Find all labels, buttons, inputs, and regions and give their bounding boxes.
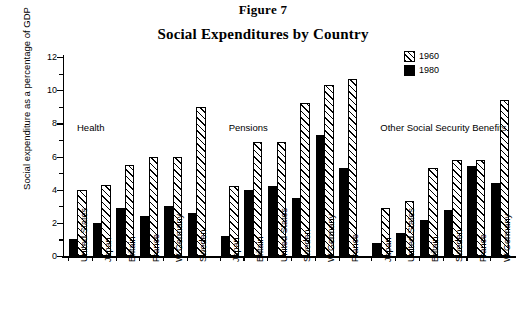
figure-container: Figure 7 Social Expenditures by Country … (0, 0, 526, 322)
bar-pair (370, 57, 394, 256)
x-tick (371, 257, 372, 261)
x-axis-label: Britain (255, 236, 265, 262)
y-tick-label-8: 8 (39, 119, 57, 128)
x-axis-label: Britain (127, 236, 137, 262)
x-axis-label: Japan (383, 237, 393, 262)
x-axis-label: Japan (231, 237, 241, 262)
x-axis-label: Japan (103, 237, 113, 262)
x-tick (339, 257, 340, 261)
x-axis-label: W Germany (174, 214, 184, 262)
y-tick-0 (57, 256, 63, 257)
x-tick (243, 257, 244, 261)
bar-pair (138, 57, 162, 256)
y-tick-label-10: 10 (39, 86, 57, 95)
x-axis-label: France (151, 234, 161, 262)
bar-pair (442, 57, 466, 256)
x-tick (68, 257, 69, 261)
x-tick (419, 257, 420, 261)
plot-area: Social expenditure as a percentage of GD… (63, 57, 515, 256)
group-label-pensions: Pensions (229, 122, 268, 133)
bar-pair (186, 57, 210, 256)
x-tick (163, 257, 164, 261)
y-tick-label-6: 6 (39, 153, 57, 162)
x-axis-label: Sweden (198, 229, 208, 262)
x-tick (490, 257, 491, 261)
x-tick (139, 257, 140, 261)
x-axis-label: United States (279, 208, 289, 262)
bar-pair (219, 57, 243, 256)
y-tick-label-2: 2 (39, 219, 57, 228)
x-axis-label: Britain (430, 236, 440, 262)
x-axis-label: W Germany (326, 214, 336, 262)
figure-number: Figure 7 (0, 2, 526, 18)
bar-pair (115, 57, 139, 256)
x-axis-label: France (478, 234, 488, 262)
x-tick (315, 257, 316, 261)
bar-pair (290, 57, 314, 256)
x-tick (220, 257, 221, 261)
x-tick (267, 257, 268, 261)
x-axis-label: France (350, 234, 360, 262)
group-label-health: Health (77, 122, 104, 133)
bar-pair (242, 57, 266, 256)
x-axis-label: Sweden (454, 229, 464, 262)
bar-series-container (63, 57, 515, 256)
bar-pair (338, 57, 362, 256)
bar-pair (418, 57, 442, 256)
y-tick-label-12: 12 (39, 53, 57, 62)
y-axis-title: Social expenditure as a percentage of GD… (21, 4, 32, 194)
x-tick (187, 257, 188, 261)
x-tick (443, 257, 444, 261)
figure-title: Social Expenditures by Country (0, 26, 526, 43)
x-tick (92, 257, 93, 261)
x-tick (466, 257, 467, 261)
x-axis-label: United States (406, 208, 416, 262)
x-tick (395, 257, 396, 261)
x-tick (116, 257, 117, 261)
bar-pair (91, 57, 115, 256)
x-axis-label: W Germany (502, 214, 512, 262)
bar-1960 (348, 79, 358, 256)
y-tick-label-0: 0 (39, 252, 57, 261)
y-tick-label-4: 4 (39, 186, 57, 195)
x-axis-label: United States (79, 208, 89, 262)
x-tick (291, 257, 292, 261)
bar-pair (465, 57, 489, 256)
x-axis-label: Sweden (302, 229, 312, 262)
group-label-other-social-security-benefits: Other Social Security Benefits (380, 122, 506, 133)
